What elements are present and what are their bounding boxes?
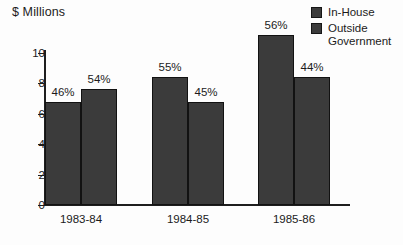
bar-value-label: 56% [264, 19, 287, 31]
bar-value-label: 45% [194, 86, 217, 98]
legend-item: In-House [311, 6, 403, 19]
y-axis-tick: 0 [0, 205, 45, 206]
bar-value-label: 55% [158, 61, 181, 73]
bar [152, 77, 188, 205]
y-axis-tick-label: 6 [11, 108, 45, 120]
legend-swatch-icon [311, 23, 322, 34]
y-axis-tick-label: 8 [11, 77, 45, 89]
x-axis-category-label: 1984-85 [167, 213, 209, 225]
y-axis-tick: 2 [0, 175, 45, 176]
bar [188, 102, 224, 205]
y-axis-tick: 4 [0, 144, 45, 145]
bar [45, 102, 81, 205]
y-axis-tick-label: 2 [11, 169, 45, 181]
legend-swatch-icon [311, 7, 322, 18]
y-axis-tick-label: 10 [11, 47, 45, 59]
bar-value-label: 46% [51, 86, 74, 98]
legend: In-HouseOutside Government [311, 6, 403, 51]
legend-item-label: In-House [328, 6, 375, 19]
bar [294, 77, 330, 205]
y-axis-tick-label: 0 [11, 199, 45, 211]
bar [258, 35, 294, 205]
bar-value-label: 54% [87, 73, 110, 85]
y-axis-tick-label: 4 [11, 138, 45, 150]
x-axis-category-label: 1983-84 [60, 213, 102, 225]
bar-chart: $ Millions 0246810 46%54%55%45%56%44% 19… [0, 0, 403, 245]
bar [81, 89, 117, 205]
legend-item: Outside Government [311, 22, 403, 48]
bar-value-label: 44% [300, 61, 323, 73]
y-axis-tick: 8 [0, 83, 45, 84]
x-axis-category-label: 1985-86 [273, 213, 315, 225]
y-axis-tick: 10 [0, 53, 45, 54]
y-axis-tick: 6 [0, 114, 45, 115]
legend-item-label: Outside Government [328, 22, 391, 48]
